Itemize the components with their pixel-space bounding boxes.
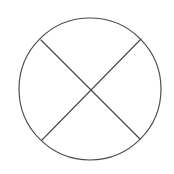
diagram-canvas (0, 0, 174, 174)
circle-with-x-diagram (0, 0, 174, 174)
